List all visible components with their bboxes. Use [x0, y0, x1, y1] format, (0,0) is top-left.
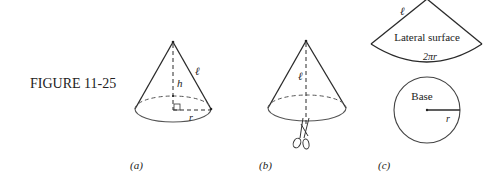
cone-b-base-back — [268, 95, 346, 108]
panel-b-cone: ℓ — [268, 40, 346, 150]
caption-c: (c) — [378, 159, 391, 172]
panel-c-net: ℓ Lateral surface 2πr Base r — [371, 0, 482, 143]
label-lateral-surface: Lateral surface — [394, 31, 460, 43]
label-slant-a: ℓ — [195, 65, 200, 77]
label-base: Base — [411, 90, 433, 102]
base-center-point — [426, 109, 428, 111]
scissors-icon — [292, 118, 310, 149]
cone-a-apex — [172, 41, 175, 44]
label-radius-c: r — [446, 113, 450, 124]
label-height: h — [177, 77, 183, 89]
cone-a-left-side — [135, 42, 173, 109]
figure-label: FIGURE 11-25 — [30, 76, 116, 91]
lateral-surface-sector: ℓ Lateral surface 2πr — [371, 0, 482, 62]
label-arc-length: 2πr — [423, 51, 437, 62]
cone-b-base-front — [268, 108, 346, 121]
base-circle: Base r — [394, 77, 460, 143]
caption-a: (a) — [130, 159, 143, 172]
label-slant-b: ℓ — [298, 70, 303, 82]
cone-a-base-point — [210, 108, 213, 111]
panel-a-cone: h ℓ r — [135, 41, 212, 123]
label-radius-a: r — [189, 112, 193, 123]
cone-a-slant-side — [173, 42, 211, 109]
right-angle-icon — [174, 104, 180, 110]
figure-11-25: FIGURE 11-25 h ℓ r ℓ — [0, 0, 502, 180]
label-sector-side: ℓ — [400, 5, 405, 17]
caption-b: (b) — [259, 159, 272, 172]
cone-b-right-side — [306, 41, 346, 108]
cone-b-apex — [305, 40, 308, 43]
cone-a-base-front — [135, 109, 211, 122]
cone-a-center-mark — [172, 95, 174, 97]
